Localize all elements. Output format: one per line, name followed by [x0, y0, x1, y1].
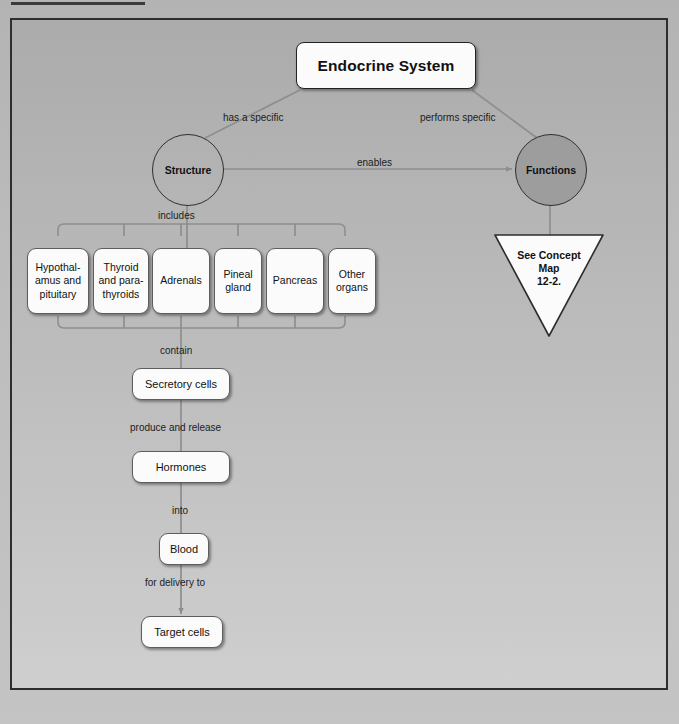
node-target-cells: Target cells [141, 616, 223, 648]
top-rule [11, 2, 145, 5]
organ-box-0: Hypothal- amus and pituitary [27, 248, 89, 314]
edge-label-produce-and-release: produce and release [130, 422, 221, 433]
diagram-panel: Endocrine System Structure Functions Hyp… [10, 18, 668, 690]
diagram-title-box: Endocrine System [296, 42, 476, 89]
concept-map-callout-text: See Concept Map 12-2. [493, 249, 605, 288]
edge-label-for-delivery-to: for delivery to [145, 577, 205, 588]
edge-label-performs-specific: performs specific [420, 112, 496, 123]
connector-lines [12, 20, 668, 690]
node-blood: Blood [159, 533, 209, 565]
edge-label-into: into [172, 505, 188, 516]
edge-label-has-a-specific: has a specific [223, 112, 284, 123]
organ-box-3: Pineal gland [214, 248, 262, 314]
node-secretory-cells: Secretory cells [132, 368, 230, 400]
organ-box-4: Pancreas [266, 248, 324, 314]
node-hormones: Hormones [132, 451, 230, 483]
node-structure: Structure [152, 134, 224, 206]
organ-box-5: Other organs [328, 248, 376, 314]
organ-box-2: Adrenals [152, 248, 210, 314]
edge-label-contain: contain [160, 345, 192, 356]
edge-label-includes: includes [158, 210, 195, 221]
concept-map-callout: See Concept Map 12-2. [493, 233, 605, 338]
edge-label-enables: enables [357, 157, 392, 168]
organ-box-1: Thyroid and para- thyroids [93, 248, 149, 314]
node-functions: Functions [515, 134, 587, 206]
